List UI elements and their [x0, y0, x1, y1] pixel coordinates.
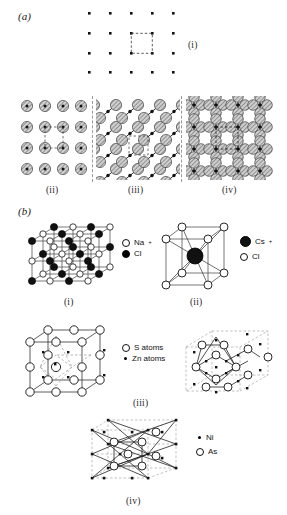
legend-row-as: As — [196, 446, 217, 457]
legend-label-zn: Zn atoms — [132, 353, 165, 364]
panel-b-iv-nias-structure — [86, 416, 184, 496]
legend-row-cl2: Cl — [240, 251, 272, 262]
panel-b-i-nacl-structure — [26, 219, 118, 301]
legend-label-cs: Cs — [255, 236, 265, 247]
s-atoms — [26, 326, 104, 396]
legend-cscl: Cs+ Cl — [240, 235, 272, 262]
legend-label-as: As — [208, 446, 217, 457]
zns-cube-svg — [24, 322, 112, 402]
panel-b-i-label: (i) — [64, 297, 74, 307]
small-dot-icon — [198, 436, 201, 439]
legend-row-na: Na+ — [122, 237, 152, 248]
legend-charge-cs: + — [269, 236, 273, 247]
legend-row-zn: Zn atoms — [122, 353, 165, 364]
filled-circle-icon — [122, 250, 130, 258]
legend-row-cl: Cl — [122, 248, 152, 259]
legend-label-ni: Ni — [206, 432, 214, 443]
s-atoms — [192, 341, 272, 391]
panel-a-iv-label: (iv) — [222, 185, 237, 195]
panel-a-iii-structure — [96, 96, 180, 180]
atom-array — [21, 100, 86, 174]
nias-svg — [86, 416, 184, 496]
nacl-svg — [26, 219, 118, 301]
part-b-label: (b) — [18, 205, 31, 217]
figure-crystal-structures: (a) (i) — [0, 0, 287, 515]
legend-label-na: Na — [134, 237, 144, 248]
legend-label-cl: Cl — [134, 248, 142, 259]
open-circle-icon — [240, 253, 248, 261]
cluster-array — [186, 96, 272, 180]
panel-a-iv-structure — [186, 96, 278, 180]
legend-row-s: S atoms — [122, 342, 165, 353]
cscl-svg — [158, 221, 234, 299]
legend-row-cs: Cs+ — [240, 235, 272, 248]
divider-ii-iii — [92, 96, 93, 182]
bond-network — [92, 420, 176, 478]
open-circle-icon — [196, 448, 204, 456]
panel-a-iii-label: (iii) — [128, 185, 143, 195]
part-a-label: (a) — [18, 10, 31, 22]
legend-nacl: Na+ Cl — [122, 237, 152, 259]
panel-a-ii-svg — [18, 96, 90, 180]
legend-label-cl2: Cl — [252, 251, 260, 262]
open-circle-icon — [122, 239, 130, 247]
panel-b-iii-zns-cube — [24, 322, 112, 402]
diagonal-chains — [96, 99, 180, 180]
panel-b-iv-label: (iv) — [126, 496, 141, 506]
legend-row-ni: Ni — [196, 432, 217, 443]
panel-a-i-point-lattice — [82, 6, 184, 78]
open-circle-icon — [122, 344, 130, 352]
panel-a-iv-svg — [186, 96, 278, 180]
panel-a-ii-structure — [18, 96, 90, 180]
cube-edges — [30, 330, 100, 392]
unit-cell-outline — [131, 33, 152, 53]
panel-a-ii-label: (ii) — [46, 185, 58, 195]
zns-tilted-svg — [182, 325, 278, 403]
divider-iii-iv — [181, 96, 182, 182]
legend-zns: S atoms Zn atoms — [122, 342, 165, 364]
panel-a-iii-svg — [96, 96, 180, 180]
legend-nias: Ni As — [196, 432, 217, 457]
panel-a-i-label: (i) — [188, 40, 198, 50]
point-lattice-svg — [82, 6, 184, 78]
legend-charge-na: + — [148, 237, 152, 248]
small-dot-icon — [124, 357, 127, 360]
panel-b-iii-zns-tilted — [182, 325, 278, 403]
panel-b-ii-label: (ii) — [190, 297, 202, 307]
large-filled-circle-icon — [240, 236, 251, 247]
panel-b-ii-cscl-structure — [158, 221, 234, 299]
panel-b-iii-label: (iii) — [133, 398, 148, 408]
legend-label-s: S atoms — [134, 342, 163, 353]
